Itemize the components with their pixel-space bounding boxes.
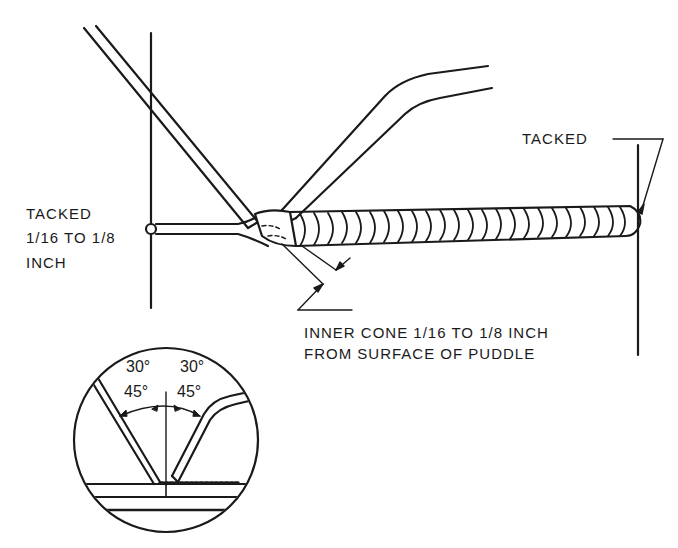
angle-inset (70, 348, 262, 532)
filler-rod (84, 26, 258, 228)
label-tacked-right: TACKED (522, 129, 588, 148)
label-inner-cone: INNER CONE 1/16 TO 1/8 INCH (304, 323, 549, 342)
label-tacked-left-unit: INCH (26, 253, 67, 272)
weld-bead (290, 206, 640, 246)
label-tacked-left: TACKED (26, 204, 92, 223)
welding-diagram (0, 0, 678, 548)
torch-tip (276, 66, 492, 228)
rod-angle-30: 30° (126, 358, 150, 376)
label-tacked-left-size: 1/16 TO 1/8 (26, 228, 116, 247)
joint-line (156, 214, 262, 224)
label-inner-cone-puddle: FROM SURFACE OF PUDDLE (304, 344, 535, 363)
weld-puddle (255, 210, 296, 246)
inner-cone-dimension (282, 244, 352, 310)
rod-angle-45: 45° (124, 383, 148, 401)
torch-angle-45: 45° (177, 383, 201, 401)
left-tack (146, 224, 156, 234)
torch-angle-30: 30° (180, 358, 204, 376)
